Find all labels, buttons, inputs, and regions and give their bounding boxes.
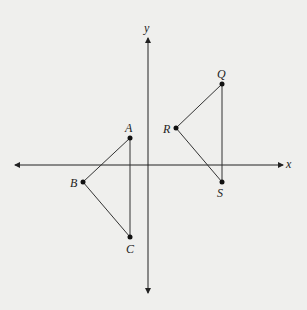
coordinate-plane — [0, 0, 307, 310]
triangle-abc — [83, 138, 130, 237]
label-r: R — [163, 123, 170, 135]
label-q: Q — [217, 68, 226, 80]
y-axis-label: y — [144, 22, 149, 34]
point-r — [174, 126, 179, 131]
triangle-qrs — [176, 84, 222, 182]
point-a — [128, 136, 133, 141]
point-q — [220, 82, 225, 87]
label-s: S — [217, 187, 223, 199]
x-axis-label: x — [286, 158, 291, 170]
point-s — [220, 180, 225, 185]
label-a: A — [125, 122, 132, 134]
point-c — [128, 235, 133, 240]
point-b — [81, 180, 86, 185]
label-c: C — [126, 243, 134, 255]
label-b: B — [70, 177, 77, 189]
